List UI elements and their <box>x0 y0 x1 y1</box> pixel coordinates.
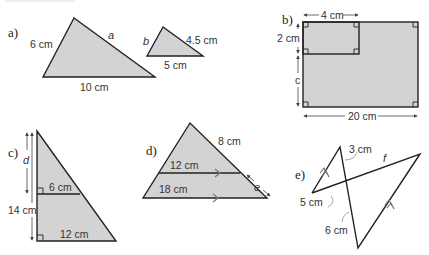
part-b: b) 4 cm 2 cm c 20 cm <box>277 9 418 122</box>
dimension-label: 2 cm <box>277 32 300 44</box>
part-d-label: d) <box>146 143 157 158</box>
segment-label: 3 cm <box>349 143 372 155</box>
dimension-label: 20 cm <box>348 110 377 122</box>
faint-header-text <box>5 0 75 2</box>
dimension-label: 6 cm <box>49 181 72 193</box>
part-e-label: e) <box>295 167 305 182</box>
side-label: 10 cm <box>80 81 109 93</box>
side-label: 4.5 cm <box>186 34 218 46</box>
side-label: 6 cm <box>30 38 53 50</box>
unknown-label: f <box>383 152 387 164</box>
rectangle-b-outer <box>303 22 418 107</box>
part-b-label: b) <box>282 12 293 27</box>
side-label: a <box>108 29 114 41</box>
dimension-label: 12 cm <box>60 228 89 240</box>
unknown-label: e <box>254 181 260 193</box>
unknown-label: c <box>295 74 300 86</box>
dimension-label: 4 cm <box>321 9 344 21</box>
dimension-label: 12 cm <box>170 159 199 171</box>
unknown-label: d <box>23 154 30 166</box>
part-e: e) 3 cm f 5 cm 6 cm <box>295 143 420 248</box>
segment-label: 5 cm <box>300 196 323 208</box>
dimension-label: 14 cm <box>8 204 37 216</box>
part-c: c) 6 cm 12 cm d 14 cm <box>8 131 116 241</box>
part-a: a) 6 cm a 10 cm b 4.5 cm 5 cm <box>8 18 218 93</box>
part-a-label: a) <box>8 25 18 40</box>
part-c-label: c) <box>8 145 18 160</box>
segment-label: 6 cm <box>325 224 348 236</box>
side-label: 5 cm <box>164 59 187 71</box>
similar-shapes-diagram: a) 6 cm a 10 cm b 4.5 cm 5 cm b) 4 cm 2 … <box>0 0 429 255</box>
side-label: b <box>143 35 149 47</box>
diagram-svg: a) 6 cm a 10 cm b 4.5 cm 5 cm b) 4 cm 2 … <box>0 0 429 255</box>
side-label: 8 cm <box>218 135 241 147</box>
triangle-a-large <box>43 18 155 77</box>
dimension-label: 18 cm <box>159 183 188 195</box>
part-d: d) 8 cm 12 cm 18 cm e <box>143 123 270 202</box>
